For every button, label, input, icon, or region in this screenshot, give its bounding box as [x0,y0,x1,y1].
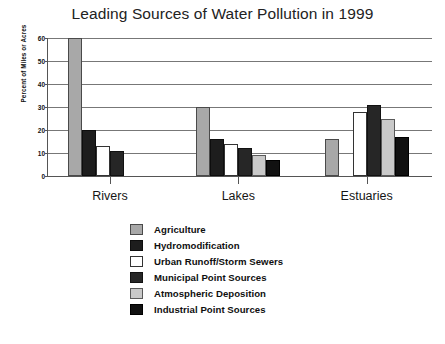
legend-label: Agriculture [154,224,206,235]
bar-estuaries-industrial-point-sources [395,137,409,176]
y-axis-line [47,38,48,177]
legend-label: Municipal Point Sources [154,272,267,283]
bar-rivers-hydromodification [82,130,96,176]
legend-item-urban-runoff-storm-sewers: Urban Runoff/Storm Sewers [130,253,283,269]
bar-lakes-agriculture [196,107,210,176]
bar-rivers-municipal-point-sources [110,151,124,176]
y-tick-label-30: 30 [25,104,45,111]
bar-lakes-hydromodification [210,139,224,176]
y-tick-label-40: 40 [25,81,45,88]
y-tick-label-20: 20 [25,127,45,134]
chart-figure: Leading Sources of Water Pollution in 19… [0,0,445,344]
bar-group-lakes [196,38,280,176]
bar-lakes-municipal-point-sources [238,148,252,176]
x-tick-mark-estuaries [367,177,368,184]
y-tick-label-0: 0 [25,173,45,180]
bar-estuaries-municipal-point-sources [367,105,381,176]
legend-item-hydromodification: Hydromodification [130,237,283,253]
bar-group-rivers [68,38,152,176]
x-tick-mark-lakes [238,177,239,184]
x-tick-label-lakes: Lakes [178,189,298,203]
y-axis-title: Percent of Miles or Acres [20,0,27,134]
plot-area [47,38,432,177]
bar-estuaries-agriculture [325,139,339,176]
legend-label: Atmospheric Deposition [154,288,266,299]
legend-item-industrial-point-sources: Industrial Point Sources [130,301,283,317]
legend-item-atmospheric-deposition: Atmospheric Deposition [130,285,283,301]
bar-rivers-urban-runoff-storm-sewers [96,146,110,176]
legend-label: Industrial Point Sources [154,304,266,315]
bar-lakes-atmospheric-deposition [252,155,266,176]
legend-swatch-icon [130,224,143,235]
bar-rivers-agriculture [68,38,82,176]
bar-lakes-urban-runoff-storm-sewers [224,144,238,176]
bar-group-estuaries [325,38,409,176]
legend-swatch-icon [130,288,143,299]
legend-swatch-icon [130,256,143,267]
bar-lakes-industrial-point-sources [266,160,280,176]
x-axis-line [47,176,432,177]
legend-label: Hydromodification [154,240,240,251]
bar-estuaries-urban-runoff-storm-sewers [353,112,367,176]
legend-swatch-icon [130,304,143,315]
chart-legend: AgricultureHydromodificationUrban Runoff… [130,221,283,317]
legend-item-agriculture: Agriculture [130,221,283,237]
y-tick-label-10: 10 [25,150,45,157]
legend-swatch-icon [130,240,143,251]
legend-label: Urban Runoff/Storm Sewers [154,256,283,267]
x-tick-label-rivers: Rivers [50,189,170,203]
x-tick-label-estuaries: Estuaries [307,189,427,203]
y-tick-label-50: 50 [25,58,45,65]
legend-swatch-icon [130,272,143,283]
y-tick-label-60: 60 [25,35,45,42]
x-tick-mark-rivers [110,177,111,184]
bar-estuaries-atmospheric-deposition [381,119,395,177]
chart-title: Leading Sources of Water Pollution in 19… [0,5,445,23]
legend-item-municipal-point-sources: Municipal Point Sources [130,269,283,285]
